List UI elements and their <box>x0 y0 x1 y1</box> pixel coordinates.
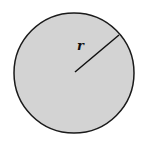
circle-shape <box>14 13 134 133</box>
circle-diagram: r <box>0 0 145 143</box>
radius-label: r <box>77 38 85 53</box>
